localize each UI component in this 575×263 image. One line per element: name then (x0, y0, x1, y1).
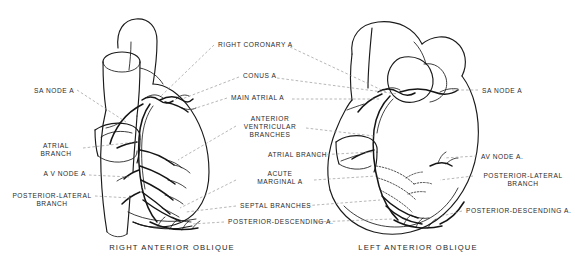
label-atrial-branch-center: ATRIAL BRANCH (268, 151, 327, 159)
caption-right-anterior-oblique: RIGHT ANTERIOR OBLIQUE (109, 243, 235, 252)
label-av-node-a-right: AV NODE A. (481, 153, 523, 161)
label-septal-branches: SEPTAL BRANCHES (240, 202, 311, 210)
label-posterior-descending-a-right: POSTERIOR-DESCENDING A. (466, 207, 571, 215)
label-posterior-descending-a-center: POSTERIOR-DESCENDING A. (228, 218, 333, 226)
label-conus-a: CONUS A (243, 72, 277, 80)
label-main-atrial-a: MAIN ATRIAL A (231, 94, 284, 102)
label-atrial-branch-left: ATRIAL BRANCH (40, 142, 71, 158)
label-sa-node-a-right: SA NODE A (482, 87, 522, 95)
caption-left-anterior-oblique: LEFT ANTERIOR OBLIQUE (358, 243, 477, 252)
label-right-coronary-a: RIGHT CORONARY A (218, 41, 293, 49)
label-anterior-ventricular-branches: ANTERIOR VENTRICULAR BRANCHES (244, 115, 297, 140)
coronary-artery-figure: .o{fill:none;stroke:#1a1a1a;stroke-width… (0, 0, 575, 263)
label-av-node-a-left: A V NODE A (43, 170, 86, 178)
label-sa-node-a-left: SA NODE A (34, 87, 74, 95)
label-posterior-lateral-branch-right: POSTERIOR-LATERAL BRANCH (483, 172, 562, 188)
label-acute-marginal-a: ACUTE MARGINAL A (257, 170, 303, 186)
label-posterior-lateral-branch-left: POSTERIOR-LATERAL BRANCH (12, 192, 91, 208)
artist-signature: D. Pierce (0, 0, 25, 1)
